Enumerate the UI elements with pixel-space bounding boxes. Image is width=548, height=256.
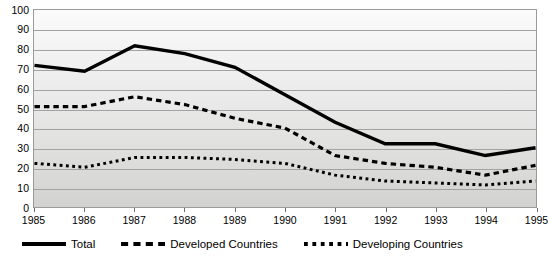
x-tick-label: 1987: [122, 214, 145, 226]
x-tick: [134, 208, 135, 212]
x-axis: 1985198619871988198919901991199219931994…: [33, 214, 537, 228]
x-tick-label: 1990: [273, 214, 296, 226]
legend-item[interactable]: Developing Countries: [304, 238, 463, 251]
x-tick: [184, 208, 185, 212]
series-lines: [34, 10, 536, 207]
x-tick: [235, 208, 236, 212]
y-tick-label: 10: [0, 183, 29, 193]
x-tick-label: 1989: [223, 214, 246, 226]
y-tick-label: 40: [0, 123, 29, 133]
x-tick: [285, 208, 286, 212]
y-tick-label: 30: [0, 143, 29, 153]
x-tick: [335, 208, 336, 212]
legend-swatch-solid: [22, 239, 66, 249]
x-tick: [537, 208, 538, 212]
x-tick: [34, 208, 35, 212]
x-tick: [84, 208, 85, 212]
y-tick-label: 70: [0, 64, 29, 74]
legend-swatch-dashed: [121, 239, 165, 249]
y-tick-label: 60: [0, 84, 29, 94]
x-tick-label: 1994: [475, 214, 498, 226]
x-tick-label: 1988: [173, 214, 196, 226]
legend-swatch-dotted: [304, 239, 348, 249]
y-tick-label: 0: [0, 203, 29, 213]
x-tick-label: 1992: [374, 214, 397, 226]
y-tick-label: 90: [0, 24, 29, 34]
y-tick-label: 80: [0, 44, 29, 54]
x-tick-label: 1985: [22, 214, 45, 226]
y-axis: 1009080706050403020100: [0, 0, 29, 216]
legend-item[interactable]: Total: [22, 238, 95, 251]
legend: TotalDeveloped CountriesDeveloping Count…: [22, 235, 489, 253]
legend-item[interactable]: Developed Countries: [121, 238, 277, 251]
x-tick: [386, 208, 387, 212]
x-axis-ticks: [33, 208, 537, 213]
x-tick-label: 1995: [525, 214, 548, 226]
x-tick: [486, 208, 487, 212]
legend-label: Total: [71, 238, 95, 251]
x-tick-label: 1993: [424, 214, 447, 226]
series-line: [34, 97, 535, 175]
x-tick: [436, 208, 437, 212]
y-tick-label: 50: [0, 104, 29, 114]
plot-area: [33, 9, 537, 208]
x-tick-label: 1991: [324, 214, 347, 226]
legend-label: Developed Countries: [170, 238, 277, 251]
x-tick-label: 1986: [72, 214, 95, 226]
y-tick-label: 100: [0, 5, 29, 15]
legend-label: Developing Countries: [353, 238, 463, 251]
y-tick-label: 20: [0, 163, 29, 173]
